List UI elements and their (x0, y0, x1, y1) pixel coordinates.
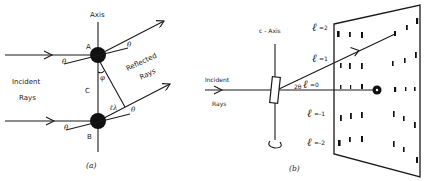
spot (361, 136, 363, 142)
incident-rays-label-line1: Incident (205, 76, 230, 83)
spot (393, 141, 395, 147)
spot (361, 32, 363, 38)
spot (416, 18, 418, 24)
spot (340, 63, 342, 68)
panel-a-caption: (a) (86, 161, 96, 170)
spacing-label: C (85, 87, 90, 95)
spot (337, 31, 340, 37)
spot (416, 157, 418, 163)
ell-symbol: ℓ (312, 52, 317, 65)
layer-line-label-neg2: ℓ =-2 (307, 136, 325, 149)
spot (394, 87, 396, 92)
spot (338, 140, 341, 146)
incident-rays-label-line2: Rays (212, 100, 226, 108)
spot (405, 87, 406, 91)
crystal (270, 77, 281, 104)
two-theta-label: 2θ (294, 83, 302, 90)
reflected-ray-b (104, 84, 170, 118)
ell-symbol: ℓ (307, 136, 312, 149)
phi-angle-label: φ (100, 74, 105, 82)
spot (392, 61, 394, 66)
diffraction-diagram: Axis A B C θ θ θ θ φ ℓλ Incident (0, 0, 427, 181)
theta-incident-b-label: θ (64, 124, 69, 132)
theta-incident-a-label: θ (62, 58, 67, 66)
ell-value: =-1 (314, 110, 325, 117)
ell-symbol: ℓ (307, 107, 312, 120)
path-difference-label: ℓλ (109, 104, 117, 112)
theta-reflected-b-label: θ (131, 106, 136, 114)
phi-arc (98, 71, 104, 73)
panel-b: c - Axis Incident Rays 2θ ℓ =2 ℓ =1 ℓ =0 (205, 5, 420, 177)
direct-beam-spot-center (376, 89, 378, 91)
spot (414, 122, 416, 128)
spot (393, 111, 395, 117)
layer-line-label-0: ℓ =0 (303, 78, 319, 91)
layer-line-label-2: ℓ =2 (312, 21, 328, 34)
spot (403, 116, 405, 121)
layer-line-label-1: ℓ =1 (312, 52, 328, 65)
theta-reflected-a-label: θ (127, 41, 132, 49)
ell-symbol: ℓ (312, 21, 317, 34)
incident-rays-label-line1: Incident (12, 78, 40, 86)
spot (349, 137, 351, 142)
incident-rays-label-line2: Rays (19, 94, 36, 102)
ell-value: =2 (319, 24, 328, 31)
ell-symbol: ℓ (303, 78, 308, 91)
spot (414, 87, 416, 91)
rotation-arrow-icon (269, 141, 281, 148)
spot (349, 32, 351, 37)
spot (415, 52, 417, 58)
reflected-rays-label-line2: Rays (138, 67, 157, 81)
spot (361, 63, 363, 69)
spot (361, 84, 363, 89)
c-axis-label: c - Axis (259, 27, 281, 34)
spot (394, 31, 396, 36)
atom-b-label: B (87, 133, 92, 141)
path-difference-line (100, 62, 125, 107)
spot (350, 113, 352, 119)
axis-label: Axis (90, 11, 105, 19)
ell-value: =1 (319, 55, 328, 62)
spot (406, 25, 408, 30)
reflected-ray-a (104, 21, 164, 52)
spot (350, 85, 351, 89)
ell-value: =0 (310, 81, 319, 88)
ell-value: =-2 (314, 139, 325, 146)
spot (340, 115, 342, 121)
spot (404, 58, 406, 63)
panel-b-caption: (b) (289, 164, 300, 173)
atom-a-label: A (86, 43, 91, 51)
spot (361, 112, 363, 118)
panel-a: Axis A B C θ θ θ θ φ ℓλ Incident (5, 11, 170, 170)
spot (340, 85, 341, 89)
spot (403, 147, 405, 152)
layer-line-label-neg1: ℓ =-1 (307, 107, 325, 120)
diffracted-beam (279, 34, 395, 89)
spot (349, 63, 351, 69)
